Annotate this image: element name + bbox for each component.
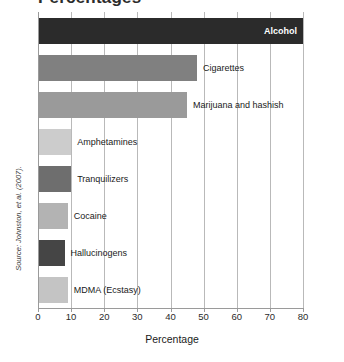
- chart-title-text: Percentages: [38, 0, 228, 6]
- bar: [38, 203, 68, 229]
- x-tick-mark: [237, 308, 238, 312]
- x-tick-mark: [270, 308, 271, 312]
- x-tick-label: 40: [165, 311, 176, 322]
- bar: [38, 55, 197, 81]
- x-axis-ticks: 01020304050607080: [0, 311, 344, 327]
- bar-label: Marijuana and hashish: [193, 92, 284, 118]
- bar-row: Amphetamines: [38, 129, 303, 155]
- y-axis-line: [38, 12, 39, 309]
- x-tick-mark: [171, 308, 172, 312]
- bar-row: MDMA (Ecstasy): [38, 277, 303, 303]
- x-tick-label: 50: [198, 311, 209, 322]
- bar: [38, 129, 71, 155]
- bar-row: Hallucinogens: [38, 240, 303, 266]
- source-note: Source: Johnston, et al. (2007).: [14, 149, 23, 289]
- bar-label: Alcohol: [264, 18, 297, 44]
- x-tick-label: 0: [35, 311, 40, 322]
- x-tick-label: 80: [298, 311, 309, 322]
- bar-chart: Percentages Source: Johnston, et al. (20…: [0, 0, 344, 362]
- gridline-80: [303, 12, 304, 308]
- bar: [38, 166, 71, 192]
- bar-label: Amphetamines: [77, 129, 137, 155]
- x-tick-label: 70: [265, 311, 276, 322]
- x-tick-mark: [204, 308, 205, 312]
- bar-row: Alcohol: [38, 18, 303, 44]
- bar-label: Tranquilizers: [77, 166, 128, 192]
- x-tick-label: 20: [99, 311, 110, 322]
- bar-label: Hallucinogens: [71, 240, 128, 266]
- bar-row: Cigarettes: [38, 55, 303, 81]
- x-tick-mark: [71, 308, 72, 312]
- bar-row: Tranquilizers: [38, 166, 303, 192]
- bar: [38, 92, 187, 118]
- x-tick-label: 60: [231, 311, 242, 322]
- x-tick-mark: [104, 308, 105, 312]
- bar: [38, 277, 68, 303]
- bar-row: Marijuana and hashish: [38, 92, 303, 118]
- x-tick-mark: [38, 308, 39, 312]
- chart-title-cropped: Percentages: [38, 0, 228, 7]
- x-tick-mark: [303, 308, 304, 312]
- plot-area: AlcoholCigarettesMarijuana and hashishAm…: [38, 12, 303, 308]
- bar-label: Cigarettes: [203, 55, 244, 81]
- x-tick-mark: [137, 308, 138, 312]
- bar-label: Cocaine: [74, 203, 107, 229]
- bar-row: Cocaine: [38, 203, 303, 229]
- x-tick-label: 10: [66, 311, 77, 322]
- bar-label: MDMA (Ecstasy): [74, 277, 141, 303]
- bar: [38, 240, 65, 266]
- x-tick-label: 30: [132, 311, 143, 322]
- bar-series: AlcoholCigarettesMarijuana and hashishAm…: [38, 12, 303, 308]
- x-axis-label: Percentage: [0, 333, 344, 345]
